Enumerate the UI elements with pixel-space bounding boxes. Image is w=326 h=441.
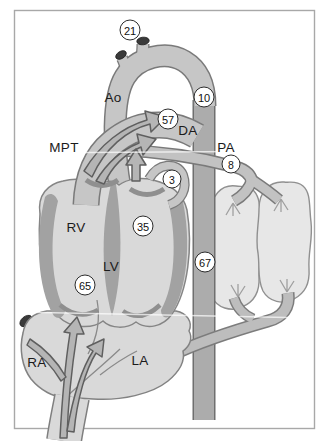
badge-8: 8 xyxy=(222,155,241,174)
label-aorta: Ao xyxy=(104,90,121,105)
badge-67: 67 xyxy=(195,252,216,273)
label-left-ventricle: LV xyxy=(103,259,119,274)
right-lung-lobe xyxy=(257,182,312,302)
badge-10: 10 xyxy=(194,87,215,108)
label-right-ventricle: RV xyxy=(66,220,85,235)
fetal-circulation-figure: Ao MPT DA PA RV LV RA LA 21 10 57 8 3 35… xyxy=(0,0,326,441)
badge-65: 65 xyxy=(75,275,96,296)
label-main-pulmonary-trunk: MPT xyxy=(49,140,78,155)
diagram-canvas xyxy=(0,0,326,441)
badge-57: 57 xyxy=(158,109,179,130)
badge-35: 35 xyxy=(133,216,154,237)
label-right-atrium: RA xyxy=(27,355,46,370)
label-left-atrium: LA xyxy=(131,353,148,368)
label-pulmonary-artery: PA xyxy=(217,140,235,155)
badge-21: 21 xyxy=(120,20,141,41)
label-ductus-arteriosus: DA xyxy=(178,123,197,138)
badge-3: 3 xyxy=(163,170,182,189)
